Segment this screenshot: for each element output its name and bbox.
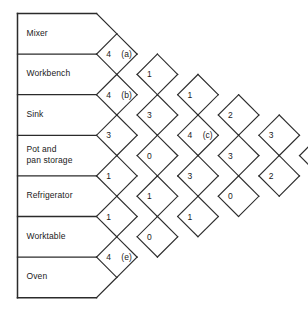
rel-cell-value: 3 [269,130,274,140]
rel-cell-value: 2 [228,110,233,120]
rel-cell-value: 1 [106,171,111,181]
rel-cell-tag: (a) [121,49,131,59]
rel-cell-value: 1 [188,90,193,100]
department-label-sink: Sink [27,109,44,120]
rel-cell-value: 1 [147,191,152,201]
rel-cell-value: 1 [188,212,193,222]
department-label-pot-and-pan-storage: Pot and pan storage [27,144,73,165]
rel-cell-value: 1 [106,212,111,222]
rel-cell-value: 3 [106,130,111,140]
rel-cell-value: 4 [106,90,111,100]
rel-cell-value: 4 [188,130,193,140]
rel-cell-value: 3 [147,110,152,120]
department-label-refrigerator: Refrigerator [27,190,73,201]
rel-cell-value: 0 [228,191,233,201]
rel-cell-value: 0 [147,151,152,161]
rel-cell-value: 4 [106,252,111,262]
rel-cell-value: 4 [106,49,111,59]
rel-cell-value: 3 [228,151,233,161]
rel-cell-value: 3 [188,171,193,181]
rel-chart-diagram: Mixer Workbench Sink Pot and pan storage… [0,0,308,313]
rel-cell-tag: (e) [121,252,131,262]
rel-cell-value: 1 [147,69,152,79]
department-label-oven: Oven [27,271,48,282]
department-label-mixer: Mixer [27,28,48,39]
rel-cell-value: 2 [269,171,274,181]
rel-cell-value: 0 [147,232,152,242]
department-label-worktable: Worktable [27,231,66,242]
rel-cell-tag: (b) [121,90,131,100]
department-label-workbench: Workbench [27,68,71,79]
rel-cell-tag: (c) [203,130,213,140]
